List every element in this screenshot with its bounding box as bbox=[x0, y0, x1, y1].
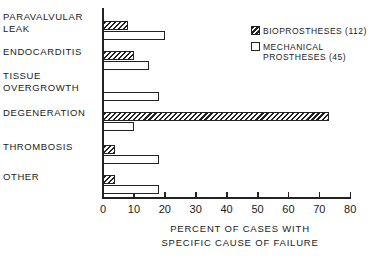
bioprostheses-bar bbox=[103, 51, 134, 60]
mechanical-bar bbox=[103, 61, 149, 70]
x-tick bbox=[257, 192, 259, 198]
x-axis-title: PERCENT OF CASES WITH SPECIFIC CAUSE OF … bbox=[130, 222, 350, 250]
x-tick-label: 10 bbox=[128, 203, 140, 215]
mechanical-bar bbox=[103, 155, 159, 164]
bioprostheses-bar bbox=[103, 145, 115, 154]
x-tick-label: 70 bbox=[313, 203, 325, 215]
x-tick-label: 20 bbox=[159, 203, 171, 215]
legend-label: BIOPROSTHESES (112) bbox=[263, 26, 367, 36]
category-label: THROMBOSIS bbox=[3, 141, 73, 153]
mechanical-bar bbox=[103, 185, 159, 194]
x-tick-label: 0 bbox=[100, 203, 106, 215]
x-tick bbox=[195, 192, 197, 198]
bioprostheses-bar bbox=[103, 112, 329, 121]
x-tick-label: 50 bbox=[251, 203, 263, 215]
bioprostheses-bar bbox=[103, 21, 128, 30]
category-label: TISSUE OVERGROWTH bbox=[3, 70, 79, 94]
legend-label: MECHANICAL PROSTHESES (45) bbox=[263, 42, 346, 62]
x-tick bbox=[226, 192, 228, 198]
category-label: PARAVALVULAR LEAK bbox=[3, 11, 83, 35]
bioprostheses-bar bbox=[103, 175, 115, 184]
category-label: OTHER bbox=[3, 171, 39, 183]
legend-swatch-open bbox=[251, 42, 260, 51]
bar-chart: PARAVALVULAR LEAKENDOCARDITISTISSUE OVER… bbox=[0, 0, 371, 261]
x-tick-label: 60 bbox=[282, 203, 294, 215]
x-tick-label: 30 bbox=[190, 203, 202, 215]
mechanical-bar bbox=[103, 122, 134, 131]
x-tick bbox=[350, 192, 352, 198]
x-tick bbox=[164, 192, 166, 198]
x-tick bbox=[288, 192, 290, 198]
x-tick-label: 40 bbox=[220, 203, 232, 215]
legend-swatch-hatched bbox=[251, 26, 260, 35]
x-tick bbox=[319, 192, 321, 198]
category-label: DEGENERATION bbox=[3, 107, 86, 119]
mechanical-bar bbox=[103, 31, 165, 40]
mechanical-bar bbox=[103, 92, 159, 101]
category-label: ENDOCARDITIS bbox=[3, 46, 82, 58]
x-tick-label: 80 bbox=[344, 203, 356, 215]
